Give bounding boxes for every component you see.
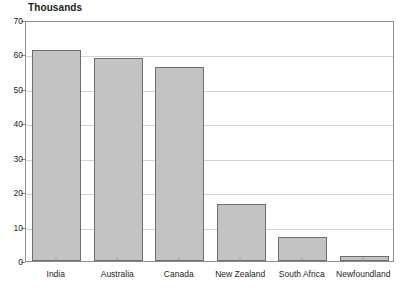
- x-tick-label: Newfoundland: [336, 269, 390, 279]
- bar-australia[interactable]: [94, 58, 143, 261]
- bar-slot: [217, 22, 266, 261]
- bars-layer: [26, 22, 393, 261]
- x-tick-mark: [178, 258, 179, 262]
- x-tick-mark: [55, 258, 56, 262]
- x-tick-label: India: [47, 269, 65, 279]
- x-tick-label: Australia: [101, 269, 134, 279]
- bar-chart: Thousands 010203040506070 IndiaAustralia…: [0, 0, 409, 302]
- x-tick-mark: [363, 258, 364, 262]
- y-tick-label: 10: [1, 223, 23, 233]
- y-tick-label: 50: [1, 85, 23, 95]
- x-tick-mark: [117, 258, 118, 262]
- x-tick-mark: [240, 258, 241, 262]
- y-axis: 010203040506070: [0, 21, 23, 262]
- bar-slot: [278, 22, 327, 261]
- bar-slot: [155, 22, 204, 261]
- y-tick-label: 30: [1, 154, 23, 164]
- bar-slot: [94, 22, 143, 261]
- bar-india[interactable]: [32, 50, 81, 261]
- y-tick-label: 70: [1, 16, 23, 26]
- x-tick-label: South Africa: [279, 269, 325, 279]
- bar-slot: [340, 22, 389, 261]
- x-tick-mark: [301, 258, 302, 262]
- bar-slot: [32, 22, 81, 261]
- plot-area: [25, 21, 394, 262]
- y-tick-label: 40: [1, 119, 23, 129]
- x-axis: IndiaAustraliaCanadaNew ZealandSouth Afr…: [25, 262, 394, 292]
- bar-newfoundland[interactable]: [340, 256, 389, 261]
- y-tick-label: 20: [1, 188, 23, 198]
- bar-south-africa[interactable]: [278, 237, 327, 261]
- y-tick-label: 60: [1, 50, 23, 60]
- bar-canada[interactable]: [155, 67, 204, 261]
- x-tick-label: Canada: [164, 269, 194, 279]
- y-tick-label: 0: [1, 257, 23, 267]
- x-tick-label: New Zealand: [215, 269, 265, 279]
- bar-new-zealand[interactable]: [217, 204, 266, 261]
- chart-title: Thousands: [28, 2, 82, 13]
